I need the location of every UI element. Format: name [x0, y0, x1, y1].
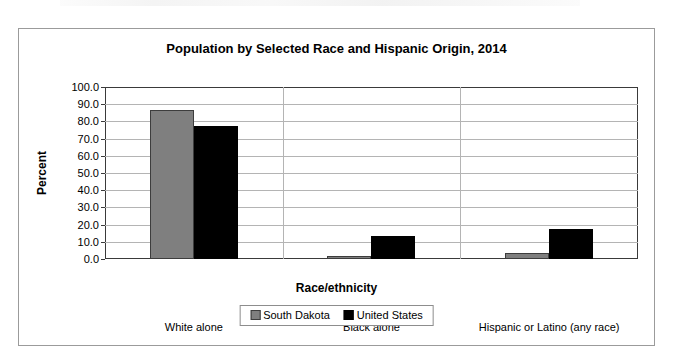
- bar-united-states: [371, 236, 415, 259]
- legend-swatch-icon: [344, 310, 354, 320]
- bar-group: [460, 87, 638, 259]
- legend-item-united-states: United States: [344, 309, 423, 321]
- y-axis-tick-label: 70.0: [53, 133, 99, 145]
- bar-south-dakota: [327, 256, 371, 259]
- legend-item-south-dakota: South Dakota: [250, 309, 330, 321]
- bar-south-dakota: [505, 253, 549, 259]
- chart-legend: South DakotaUnited States: [239, 305, 434, 326]
- bar-south-dakota: [150, 110, 194, 259]
- category-separator: [283, 87, 284, 259]
- y-axis-title-label: Percent: [35, 151, 49, 195]
- x-axis-category-label: Hispanic or Latino (any race): [460, 321, 638, 333]
- y-axis-tick-label: 30.0: [53, 201, 99, 213]
- y-axis-tick-label: 50.0: [53, 167, 99, 179]
- legend-label: United States: [357, 309, 423, 321]
- bar-group: [105, 87, 283, 259]
- legend-swatch-icon: [250, 310, 260, 320]
- y-axis-tick-label: 90.0: [53, 98, 99, 110]
- scan-artifact-strip: [60, 0, 580, 6]
- y-axis-tick-label: 10.0: [53, 236, 99, 248]
- category-separator: [460, 87, 461, 259]
- legend-label: South Dakota: [263, 309, 330, 321]
- bar-united-states: [194, 126, 238, 259]
- y-axis-title: Percent: [33, 87, 51, 259]
- plot-wrapper: 100.090.080.070.060.050.040.030.020.010.…: [105, 87, 638, 259]
- y-axis-tick-label: 40.0: [53, 184, 99, 196]
- bar-united-states: [549, 229, 593, 259]
- y-axis-tick-label: 20.0: [53, 219, 99, 231]
- y-axis-tick-label: 80.0: [53, 115, 99, 127]
- x-axis-title: Race/ethnicity: [19, 281, 654, 295]
- y-axis-tick-label: 100.0: [53, 81, 99, 93]
- y-axis-tick-label: 60.0: [53, 150, 99, 162]
- chart-container: Population by Selected Race and Hispanic…: [18, 28, 655, 346]
- y-axis-tick-label: 0.0: [53, 253, 99, 265]
- bar-group: [283, 87, 461, 259]
- y-axis-tick-mark: [101, 259, 105, 260]
- chart-title: Population by Selected Race and Hispanic…: [19, 41, 654, 56]
